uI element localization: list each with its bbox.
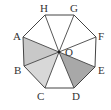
octagon-diagram: H G F A O B E C D <box>0 0 111 110</box>
label-F: F <box>98 30 104 42</box>
label-E: E <box>98 64 105 76</box>
label-H: H <box>40 2 48 14</box>
label-G: G <box>70 2 78 14</box>
label-D: D <box>72 90 80 102</box>
label-C: C <box>37 90 44 102</box>
center-point <box>58 51 61 54</box>
octagon-figure: H G F A O B E C D <box>0 0 111 110</box>
label-O: O <box>65 46 73 58</box>
label-B: B <box>14 64 21 76</box>
label-A: A <box>13 30 21 42</box>
